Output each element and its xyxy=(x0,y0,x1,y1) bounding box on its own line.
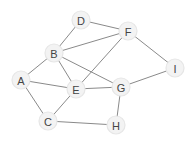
node-i: I xyxy=(166,59,184,77)
node-label: D xyxy=(77,15,85,27)
node-label: G xyxy=(117,82,126,94)
node-c: C xyxy=(39,112,57,130)
node-label: H xyxy=(112,120,120,132)
node-label: F xyxy=(125,26,132,38)
nodes-layer: DFBIAEGCH xyxy=(12,11,184,134)
node-label: I xyxy=(173,63,176,75)
node-a: A xyxy=(12,71,30,89)
node-label: A xyxy=(17,75,25,87)
node-label: C xyxy=(44,116,52,128)
edges-layer xyxy=(21,20,175,125)
node-f: F xyxy=(119,22,137,40)
graph-diagram: DFBIAEGCH xyxy=(0,0,196,142)
node-b: B xyxy=(45,44,63,62)
node-d: D xyxy=(72,11,90,29)
node-label: E xyxy=(72,84,79,96)
edge-c-h xyxy=(48,121,116,125)
node-label: B xyxy=(50,48,57,60)
node-g: G xyxy=(112,78,130,96)
node-e: E xyxy=(67,80,85,98)
edge-b-f xyxy=(54,31,128,53)
node-h: H xyxy=(107,116,125,134)
